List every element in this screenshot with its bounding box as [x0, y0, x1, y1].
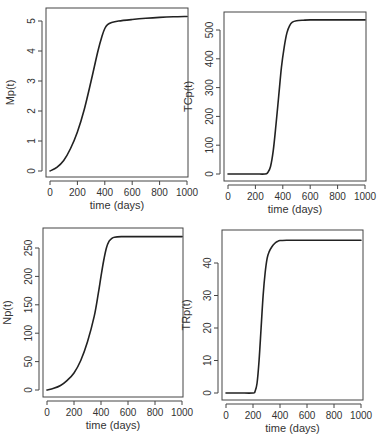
- y-tick-label: 1: [26, 138, 37, 144]
- x-tick-label: 1000: [354, 191, 377, 202]
- y-tick-label: 50: [23, 356, 34, 368]
- y-tick-label: 300: [204, 79, 215, 96]
- y-tick-label: 2: [26, 108, 37, 114]
- x-tick-label: 400: [272, 410, 289, 421]
- y-axis-label: Mp(t): [4, 80, 16, 106]
- x-tick-label: 0: [223, 410, 229, 421]
- x-tick-label: 0: [47, 187, 53, 198]
- y-axis-label: TRp(t): [180, 299, 192, 330]
- data-line: [226, 240, 361, 393]
- data-line: [47, 237, 182, 390]
- y-tick-label: 400: [204, 50, 215, 67]
- y-tick-label: 0: [23, 387, 34, 393]
- plot-frame: [46, 8, 188, 177]
- y-tick-label: 150: [23, 296, 34, 313]
- y-tick-label: 40: [202, 257, 213, 269]
- y-tick-label: 10: [202, 355, 213, 367]
- x-tick-label: 800: [326, 410, 343, 421]
- y-tick-label: 3: [26, 78, 37, 84]
- plot-frame: [43, 228, 183, 397]
- y-tick-label: 5: [26, 18, 37, 24]
- x-tick-label: 400: [93, 407, 110, 418]
- y-tick-label: 100: [23, 324, 34, 341]
- x-axis-label: time (days): [86, 419, 140, 431]
- y-tick-label: 0: [202, 390, 213, 396]
- x-tick-label: 200: [247, 191, 264, 202]
- y-tick-label: 4: [26, 48, 37, 54]
- x-axis-label: time (days): [265, 422, 319, 434]
- data-line: [50, 17, 187, 172]
- x-tick-label: 1000: [171, 407, 194, 418]
- plot-frame: [224, 12, 366, 181]
- y-tick-label: 0: [204, 171, 215, 177]
- x-tick-label: 200: [69, 187, 86, 198]
- y-axis-label: Np(t): [1, 300, 13, 324]
- x-tick-label: 0: [225, 191, 231, 202]
- y-tick-label: 20: [202, 322, 213, 334]
- y-tick-label: 500: [204, 21, 215, 38]
- x-tick-label: 200: [245, 410, 262, 421]
- chart-np: Np(t) time (days) 0501001502002500200400…: [1, 228, 194, 431]
- chart-mp: Mp(t) time (days) 0123450200400600800100…: [4, 8, 199, 211]
- x-tick-label: 600: [299, 410, 316, 421]
- x-tick-label: 600: [302, 191, 319, 202]
- plot-frame: [222, 230, 363, 400]
- y-tick-label: 200: [204, 108, 215, 125]
- x-tick-label: 600: [120, 407, 137, 418]
- y-tick-label: 100: [204, 136, 215, 153]
- y-axis-label: TCp(t): [182, 81, 194, 112]
- x-tick-label: 400: [274, 191, 291, 202]
- y-tick-label: 250: [23, 239, 34, 256]
- y-tick-label: 200: [23, 268, 34, 285]
- chart-tcp: TCp(t) time (days) 010020030040050002004…: [182, 12, 377, 215]
- data-line: [228, 20, 365, 174]
- x-tick-label: 1000: [176, 187, 199, 198]
- x-tick-label: 200: [66, 407, 83, 418]
- x-axis-label: time (days): [90, 199, 144, 211]
- x-tick-label: 800: [147, 407, 164, 418]
- x-tick-label: 600: [124, 187, 141, 198]
- figure-2x2-line-charts: Mp(t) time (days) 0123450200400600800100…: [0, 0, 380, 443]
- x-tick-label: 800: [151, 187, 168, 198]
- chart-trp: TRp(t) time (days) 010203040020040060080…: [180, 230, 373, 434]
- x-tick-label: 0: [44, 407, 50, 418]
- x-tick-label: 400: [96, 187, 113, 198]
- y-tick-label: 30: [202, 290, 213, 302]
- x-tick-label: 800: [329, 191, 346, 202]
- y-tick-label: 0: [26, 168, 37, 174]
- x-axis-label: time (days): [268, 203, 322, 215]
- x-tick-label: 1000: [350, 410, 373, 421]
